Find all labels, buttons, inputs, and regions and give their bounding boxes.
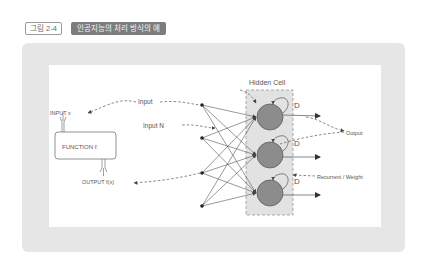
recurrent-weight-label: Recurrent / Weight [317, 174, 363, 180]
hidden-node [257, 104, 283, 130]
delay-label: D [294, 139, 300, 148]
input-node [200, 136, 204, 140]
hidden-cell-label: Hidden Cell [249, 79, 286, 86]
input-node [200, 204, 204, 208]
input-x-label: INPUT x [50, 110, 71, 116]
output-fx-label: OUTPUT f(x) [82, 179, 114, 185]
input-nodes [200, 103, 204, 208]
input-node [200, 103, 204, 107]
output-label: Output [346, 130, 363, 136]
hidden-node [257, 142, 283, 168]
delay-label: D [294, 177, 300, 186]
input-node [200, 171, 204, 175]
rnn-diagram: Hidden Cell FUNCTION f: INPUT x OUTPUT f… [0, 0, 429, 268]
hidden-node [257, 180, 283, 206]
input-label: Input [138, 98, 153, 106]
function-label: FUNCTION f: [62, 144, 98, 150]
delay-label: D [294, 101, 300, 110]
input-n-label: Input N [143, 122, 164, 130]
